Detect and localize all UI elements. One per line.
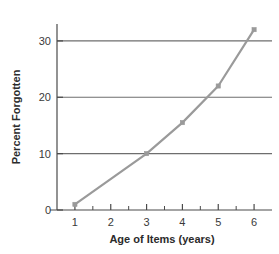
y-axis-title: Percent Forgotten bbox=[10, 69, 22, 164]
x-tick-label-1: 1 bbox=[72, 216, 78, 228]
y-tick-label-30: 30 bbox=[39, 35, 51, 47]
y-tick-label-10: 10 bbox=[39, 148, 51, 160]
data-point-marker bbox=[252, 28, 256, 32]
x-tick-label-3: 3 bbox=[144, 216, 150, 228]
y-tick-label-20: 20 bbox=[39, 91, 51, 103]
data-point-marker bbox=[180, 121, 184, 125]
data-point-marker bbox=[216, 84, 220, 88]
x-tick-label-5: 5 bbox=[215, 216, 221, 228]
x-tick-label-4: 4 bbox=[179, 216, 185, 228]
chart-container: 123456 0102030 Age of Items (years) Perc… bbox=[0, 0, 279, 254]
x-axis-title: Age of Items (years) bbox=[109, 233, 214, 245]
x-tick-label-2: 2 bbox=[108, 216, 114, 228]
x-tick-label-6: 6 bbox=[251, 216, 257, 228]
data-point-marker bbox=[73, 202, 77, 206]
line-chart: 123456 0102030 Age of Items (years) Perc… bbox=[0, 0, 279, 254]
data-point-marker bbox=[144, 152, 148, 156]
y-tick-label-0: 0 bbox=[45, 204, 51, 216]
